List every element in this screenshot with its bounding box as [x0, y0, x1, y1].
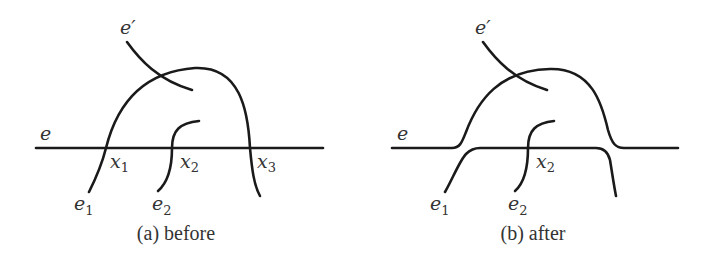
- label-e-prime: e′: [120, 16, 136, 38]
- label-x2: x2: [536, 150, 555, 175]
- diagram-canvas: e e′ e1 e2 x1 x2 x3 (a) before e e′ e1 e…: [0, 0, 706, 264]
- edge-e2: [515, 121, 554, 191]
- label-e2: e2: [152, 192, 172, 218]
- label-x2: x2: [180, 150, 199, 175]
- panel-after: e e′ e1 e2 x2 (b) after: [392, 16, 678, 245]
- edge-e-prime: [483, 42, 547, 90]
- edge-e-prime: [127, 42, 192, 90]
- label-e-prime: e′: [475, 16, 491, 38]
- edge-e1-rerouted: [445, 148, 616, 196]
- label-e: e: [397, 122, 408, 144]
- edge-e2: [158, 121, 199, 191]
- edge-e-rerouted: [392, 69, 678, 148]
- label-x1: x1: [110, 150, 129, 175]
- caption-before: (a) before: [137, 222, 215, 245]
- label-x3: x3: [257, 150, 276, 175]
- panel-before: e e′ e1 e2 x1 x2 x3 (a) before: [36, 16, 323, 245]
- caption-after: (b) after: [501, 222, 566, 245]
- label-e1: e1: [430, 192, 450, 218]
- label-e1: e1: [74, 192, 94, 218]
- label-e2: e2: [508, 192, 528, 218]
- label-e: e: [40, 122, 51, 144]
